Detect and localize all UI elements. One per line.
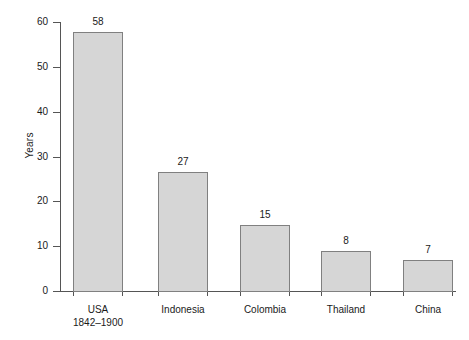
- category-label-text: China: [415, 304, 441, 315]
- bar-usa: [73, 32, 123, 292]
- category-label-text: Thailand: [327, 304, 365, 315]
- y-tick-mark: [53, 112, 60, 113]
- y-axis-line: [60, 22, 61, 292]
- bar-value-label: 58: [73, 17, 123, 27]
- category-label-china: China: [388, 303, 468, 316]
- y-tick-label: 20: [18, 196, 48, 206]
- y-tick-mark: [53, 67, 60, 68]
- y-tick-mark: [53, 246, 60, 247]
- bar-value-label: 27: [158, 157, 208, 167]
- y-tick-label: 50: [18, 62, 48, 72]
- y-tick-label: 0: [18, 286, 48, 296]
- y-tick-label: 60: [18, 17, 48, 27]
- bar-value-label: 15: [240, 210, 290, 220]
- bar-indonesia: [158, 172, 208, 292]
- y-tick-mark: [53, 201, 60, 202]
- category-label-colombia: Colombia: [225, 303, 305, 316]
- category-label-text: Colombia: [244, 304, 286, 315]
- y-tick-label: 10: [18, 241, 48, 251]
- bar-value-label: 7: [403, 245, 453, 255]
- bar-colombia: [240, 225, 290, 292]
- category-label-text: USA: [88, 304, 109, 315]
- y-tick-mark: [53, 157, 60, 158]
- category-sublabel-text: 1842–1900: [58, 316, 138, 329]
- bar-value-label: 8: [321, 236, 371, 246]
- category-label-text: Indonesia: [161, 304, 204, 315]
- category-label-thailand: Thailand: [306, 303, 386, 316]
- y-tick-label: 40: [18, 107, 48, 117]
- bar-china: [403, 260, 453, 292]
- bar-thailand: [321, 251, 371, 292]
- y-tick-mark: [53, 291, 60, 292]
- category-label-usa: USA 1842–1900: [58, 303, 138, 329]
- y-tick-label: 30: [18, 152, 48, 162]
- bar-chart: Years 60 50 40 30 20 10 0 58 27 15 8 7 U…: [0, 0, 469, 340]
- y-tick-mark: [53, 22, 60, 23]
- category-label-indonesia: Indonesia: [143, 303, 223, 316]
